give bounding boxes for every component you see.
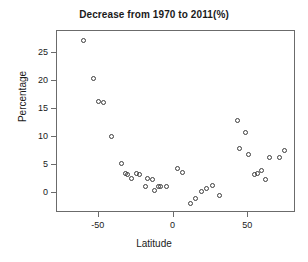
y-axis-tick (51, 192, 56, 193)
data-point (199, 189, 204, 194)
data-point (91, 76, 96, 81)
data-point (175, 166, 180, 171)
data-point (282, 148, 287, 153)
y-axis-tick (51, 164, 56, 165)
data-point (164, 184, 169, 189)
data-point (150, 177, 155, 182)
data-point (143, 184, 148, 189)
y-axis-tick-label: 25 (22, 47, 48, 57)
x-axis-tick (98, 212, 99, 217)
y-axis-tick-label: 0 (22, 187, 48, 197)
data-point (277, 155, 282, 160)
data-point (246, 152, 251, 157)
y-axis-tick-label: 10 (22, 131, 48, 141)
data-point (158, 184, 163, 189)
data-point (129, 176, 134, 181)
data-point (263, 177, 268, 182)
y-axis-tick-label: 5 (22, 159, 48, 169)
chart-title: Decrease from 1970 to 2011(%) (0, 9, 308, 20)
data-point (193, 196, 198, 201)
scatter-plot-figure: Decrease from 1970 to 2011(%) Percentage… (0, 0, 308, 262)
x-axis-tick-label: 0 (170, 220, 175, 230)
data-points-layer (57, 31, 294, 211)
data-point (217, 193, 222, 198)
data-point (243, 130, 248, 135)
y-axis-tick (51, 52, 56, 53)
plot-area (56, 30, 295, 212)
data-point (180, 170, 185, 175)
data-point (235, 118, 240, 123)
data-point (259, 168, 264, 173)
data-point (137, 172, 142, 177)
data-point (267, 155, 272, 160)
data-point (188, 201, 193, 206)
x-axis-title: Latitude (0, 238, 308, 249)
x-axis-tick-label: 50 (242, 220, 252, 230)
data-point (119, 161, 124, 166)
x-axis-tick (247, 212, 248, 217)
data-point (109, 134, 114, 139)
y-axis-tick-label: 15 (22, 103, 48, 113)
x-axis-tick (173, 212, 174, 217)
y-axis-tick (51, 108, 56, 109)
data-point (101, 100, 106, 105)
data-point (204, 186, 209, 191)
y-axis-tick (51, 136, 56, 137)
data-point (237, 146, 242, 151)
x-axis-tick-label: -50 (91, 220, 104, 230)
y-axis-tick-label: 20 (22, 75, 48, 85)
data-point (81, 38, 86, 43)
data-point (210, 183, 215, 188)
y-axis-tick (51, 80, 56, 81)
